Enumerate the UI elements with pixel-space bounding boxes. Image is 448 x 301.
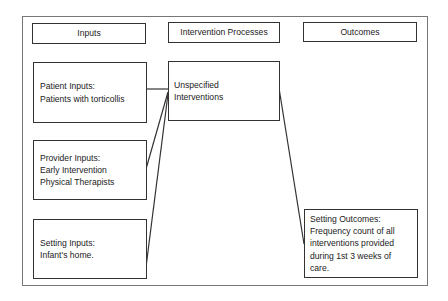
interventions-line: Interventions	[174, 91, 279, 103]
interventions-line: Unspecified	[174, 79, 279, 91]
patient-inputs-line: Patients with torticollis	[40, 93, 146, 105]
header-intervention-processes: Intervention Processes	[168, 22, 280, 43]
setting-outcomes-line: care.	[310, 262, 417, 274]
connector-setting-to-interventions	[146, 94, 168, 267]
header-outcomes-label: Outcomes	[340, 26, 379, 38]
header-processes-label: Intervention Processes	[180, 26, 267, 38]
patient-inputs-title: Patient Inputs:	[40, 80, 146, 92]
header-inputs: Inputs	[32, 23, 146, 44]
provider-inputs-line: Physical Therapists	[40, 176, 146, 188]
setting-outcomes-title: Setting Outcomes:	[310, 213, 417, 225]
setting-outcomes-line: during 1st 3 weeks of	[310, 250, 417, 262]
setting-outcomes-line: Frequency count of all	[310, 225, 417, 237]
setting-inputs-line: Infant's home.	[40, 249, 146, 261]
setting-outcomes-box: Setting Outcomes: Frequency count of all…	[304, 209, 418, 278]
provider-inputs-box: Provider Inputs: Early Intervention Phys…	[33, 140, 147, 200]
setting-inputs-title: Setting Inputs:	[40, 237, 146, 249]
provider-inputs-line: Early Intervention	[40, 164, 146, 176]
header-inputs-label: Inputs	[77, 27, 100, 39]
setting-inputs-box: Setting Inputs: Infant's home.	[33, 219, 147, 279]
provider-inputs-title: Provider Inputs:	[40, 152, 146, 164]
connector-interventions-to-outcomes	[279, 88, 304, 244]
connector-provider-to-interventions	[146, 92, 168, 169]
header-outcomes: Outcomes	[303, 22, 417, 42]
setting-outcomes-line: interventions provided	[310, 237, 417, 249]
unspecified-interventions-box: Unspecified Interventions	[168, 61, 280, 121]
patient-inputs-box: Patient Inputs: Patients with torticolli…	[33, 62, 147, 123]
